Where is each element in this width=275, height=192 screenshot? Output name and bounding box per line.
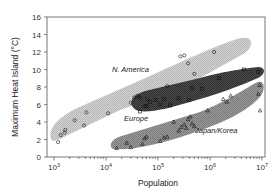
y-axis: [44, 17, 47, 157]
x-tick-1e3: 103: [48, 162, 60, 172]
heat-island-chart: 0 2 4 6 8 10 12 14 16 Maximum Heat Islan…: [0, 0, 275, 192]
y-axis-title: Maximum Heat Island (°C): [10, 37, 20, 137]
y-tick-10: 10: [32, 66, 41, 75]
x-axis: [54, 157, 262, 161]
y-tick-14: 14: [32, 31, 41, 40]
x-axis-title: Population: [138, 178, 178, 188]
label-europe: Europe: [124, 114, 148, 123]
label-japan-korea: Japan/Korea: [194, 126, 238, 135]
x-tick-1e6: 106: [204, 162, 216, 172]
x-tick-1e5: 105: [152, 162, 164, 172]
y-tick-labels: 0 2 4 6 8 10 12 14 16: [32, 13, 41, 162]
x-tick-labels: 103 104 105 106 107: [48, 162, 268, 172]
y-tick-16: 16: [32, 13, 41, 22]
x-tick-1e7: 107: [256, 162, 268, 172]
y-tick-2: 2: [37, 136, 42, 145]
y-tick-4: 4: [37, 118, 42, 127]
y-tick-8: 8: [37, 83, 42, 92]
y-tick-12: 12: [32, 48, 41, 57]
x-tick-1e4: 104: [100, 162, 112, 172]
y-tick-0: 0: [37, 153, 42, 162]
label-north-america: N. America: [112, 65, 149, 74]
y-tick-6: 6: [37, 101, 42, 110]
